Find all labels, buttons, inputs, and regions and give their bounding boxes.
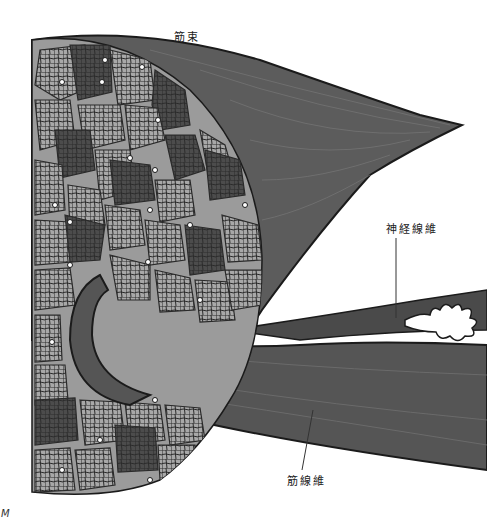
fascicle-label: 筋束 xyxy=(174,28,200,44)
muscle-fiber-label: 筋線維 xyxy=(287,472,326,488)
nerve-fiber-label: 神経線維 xyxy=(386,220,438,236)
corner-mark: M xyxy=(1,508,10,519)
muscle-fascicle-illustration xyxy=(0,0,487,520)
